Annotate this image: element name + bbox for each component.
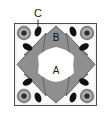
figure-container: C B A bbox=[0, 0, 110, 122]
diagram-svg: C B A bbox=[0, 0, 110, 122]
corner-ring-bottom-right bbox=[80, 89, 94, 103]
label-b: B bbox=[53, 32, 60, 43]
label-c: C bbox=[34, 7, 42, 19]
corner-ring-bottom-left bbox=[17, 89, 31, 103]
corner-ring-top-right bbox=[80, 26, 94, 40]
label-a: A bbox=[53, 65, 60, 76]
corner-ring-top-left bbox=[17, 26, 31, 40]
